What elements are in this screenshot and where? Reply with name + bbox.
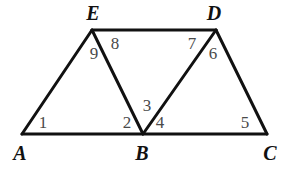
angle-label-6: 6: [209, 45, 218, 62]
angle-label-2: 2: [123, 114, 132, 131]
segment-BD: [143, 30, 216, 134]
vertex-label-E: E: [86, 3, 99, 23]
vertex-label-C: C: [263, 143, 276, 163]
segment-group: [22, 30, 267, 134]
geometry-figure: A B C D E 1 2 3 4 5 6 7 8 9: [0, 0, 285, 172]
angle-label-4: 4: [156, 114, 165, 131]
vertex-label-B: B: [135, 143, 148, 163]
angle-label-5: 5: [241, 114, 250, 131]
angle-label-3: 3: [143, 97, 152, 114]
angle-label-8: 8: [111, 35, 120, 52]
vertex-label-D: D: [207, 3, 221, 23]
vertex-label-A: A: [13, 143, 26, 163]
angle-label-1: 1: [39, 114, 48, 131]
angle-label-9: 9: [90, 45, 99, 62]
angle-label-7: 7: [188, 35, 197, 52]
segment-AE: [22, 30, 92, 134]
